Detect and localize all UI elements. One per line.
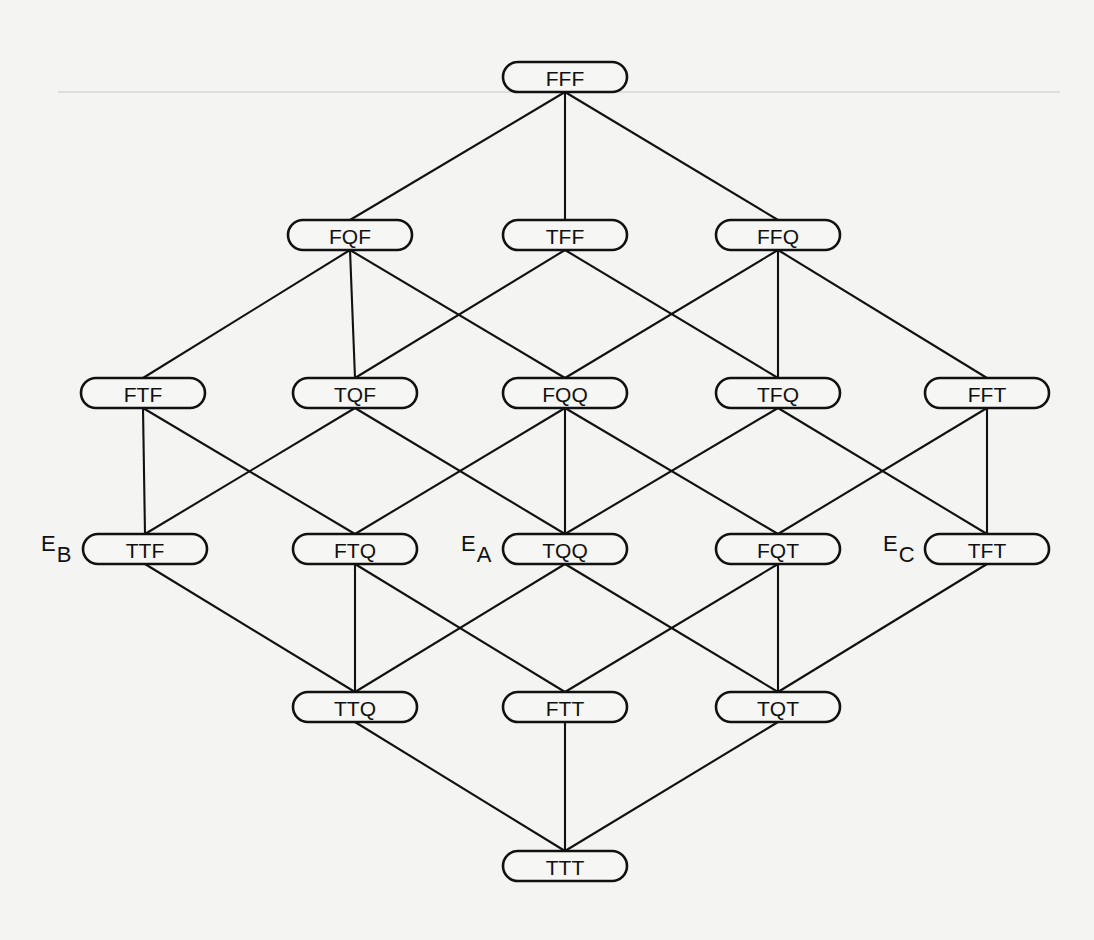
- node-tqf: TQF: [293, 378, 417, 408]
- node-fff: FFF: [503, 62, 627, 92]
- node-label: TQQ: [542, 539, 588, 562]
- annotation-eb: EB: [41, 531, 71, 567]
- node-label: TTT: [546, 856, 585, 879]
- lattice-diagram: FFFFQFTFFFFQFTFTQFFQQTFQFFTTTFFTQTQQFQTT…: [0, 0, 1094, 940]
- node-fft: FFT: [925, 378, 1049, 408]
- node-label: FQT: [757, 539, 799, 562]
- node-label: TTQ: [334, 697, 376, 720]
- node-label: TFT: [968, 539, 1007, 562]
- edge-ttf-ttq: [145, 564, 355, 692]
- edge-tqt-ttt: [565, 722, 778, 851]
- node-label: TFF: [546, 225, 584, 248]
- edge-fqf-ftf: [143, 250, 350, 378]
- node-ftf: FTF: [81, 378, 205, 408]
- edge-ffq-fft: [778, 250, 987, 378]
- node-label: FFT: [968, 383, 1007, 406]
- node-tqt: TQT: [716, 692, 840, 722]
- node-label: TTF: [126, 539, 164, 562]
- node-label: TQF: [334, 383, 376, 406]
- node-label: FTQ: [334, 539, 376, 562]
- node-label: FQQ: [542, 383, 588, 406]
- node-label: TFQ: [757, 383, 799, 406]
- edge-ftf-ttf: [143, 408, 145, 534]
- node-fqf: FQF: [288, 220, 412, 250]
- node-label: TQT: [757, 697, 799, 720]
- node-tft: TFT: [925, 534, 1049, 564]
- edge-fff-ffq: [565, 92, 778, 220]
- node-ttf: TTF: [83, 534, 207, 564]
- node-fqt: FQT: [716, 534, 840, 564]
- annotation-ea: EA: [461, 531, 492, 567]
- node-ttq: TTQ: [293, 692, 417, 722]
- node-label: FQF: [329, 225, 371, 248]
- node-ffq: FFQ: [716, 220, 840, 250]
- node-label: FTF: [124, 383, 162, 406]
- edges-layer: [143, 92, 987, 851]
- edge-ttq-ttt: [355, 722, 565, 851]
- node-ftq: FTQ: [293, 534, 417, 564]
- node-tqq: TQQ: [503, 534, 627, 564]
- node-ftt: FTT: [503, 692, 627, 722]
- node-label: FFQ: [757, 225, 799, 248]
- edge-fqf-tqf: [350, 250, 355, 378]
- edge-fff-fqf: [350, 92, 565, 220]
- node-ttt: TTT: [503, 851, 627, 881]
- node-label: FTT: [546, 697, 585, 720]
- node-label: FFF: [546, 67, 584, 90]
- node-fqq: FQQ: [503, 378, 627, 408]
- node-tfq: TFQ: [716, 378, 840, 408]
- node-tff: TFF: [503, 220, 627, 250]
- edge-tft-tqt: [778, 564, 987, 692]
- annotation-ec: EC: [883, 531, 915, 567]
